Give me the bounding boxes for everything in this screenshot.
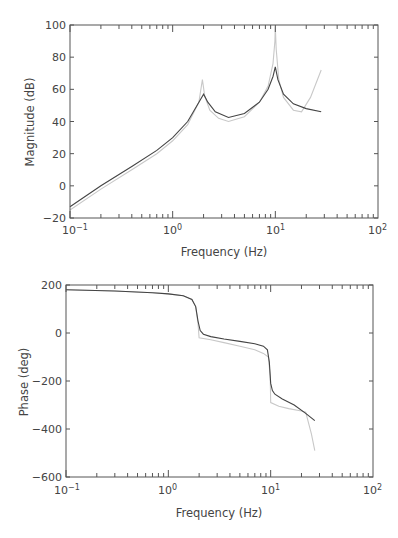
magnitude-plot: 100 80 60 40 20 0 −20 10−1 100 101 102 F… [23,19,387,259]
phase-x-tick-labels: 10−1 100 101 102 [54,483,382,497]
bode-plot-figure: 100 80 60 40 20 0 −20 10−1 100 101 102 F… [0,0,398,538]
x-tick-label: 102 [363,483,382,497]
series-line-light [66,290,315,451]
y-tick-label: −600 [32,471,62,484]
y-tick-label: 60 [52,83,66,96]
phase-y-tick-labels: 200 0 −200 −400 −600 [32,279,62,484]
phase-axis-ticks [66,285,373,477]
y-tick-label: −200 [32,375,62,388]
magnitude-plot-frame [70,25,378,218]
y-tick-label: −400 [32,423,62,436]
y-tick-label: 0 [59,180,66,193]
y-tick-label: 40 [52,116,66,129]
magnitude-x-axis-label: Frequency (Hz) [181,245,268,259]
series-line-dark [66,290,315,421]
magnitude-y-tick-labels: 100 80 60 40 20 0 −20 [43,19,66,225]
magnitude-x-tick-labels: 10−1 100 101 102 [62,223,387,237]
y-tick-label: 80 [52,51,66,64]
x-tick-label: 10−1 [54,483,80,497]
x-tick-label: 100 [163,223,182,237]
x-tick-label: 101 [261,483,280,497]
series-line-light [70,27,321,210]
y-tick-label: 20 [52,148,66,161]
series-line-dark [70,67,321,207]
magnitude-curves [70,27,321,210]
phase-curves [66,290,315,451]
phase-plot: 200 0 −200 −400 −600 10−1 100 101 102 Fr… [17,279,382,520]
x-tick-label: 100 [158,483,177,497]
phase-y-axis-label: Phase (deg) [17,348,31,417]
x-tick-label: 102 [368,223,387,237]
x-tick-label: 101 [266,223,285,237]
magnitude-y-axis-label: Magnitude (dB) [23,78,37,167]
phase-plot-frame [66,285,373,477]
x-tick-label: 10−1 [62,223,88,237]
magnitude-axis-ticks [70,25,378,218]
y-tick-label: 100 [45,19,66,32]
y-tick-label: 0 [55,327,62,340]
phase-x-axis-label: Frequency (Hz) [176,506,263,520]
y-tick-label: 200 [41,279,62,292]
